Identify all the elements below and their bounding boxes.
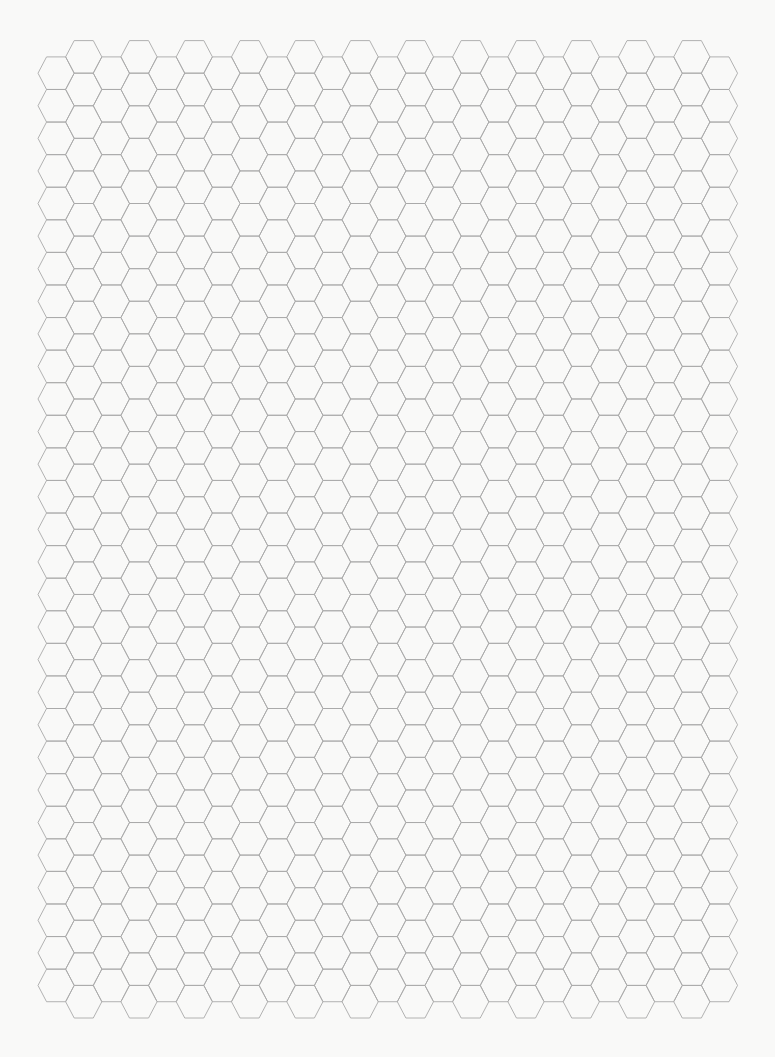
hexagon-cell — [204, 937, 240, 970]
hexagon-cell — [287, 660, 323, 693]
hexagon-cell — [342, 660, 378, 693]
hexagon-cell — [370, 383, 406, 416]
hexagon-cell — [453, 171, 489, 204]
hexagon-cell — [701, 318, 737, 351]
hexagon-cell — [121, 138, 157, 171]
hexagon-cell — [453, 855, 489, 888]
hexagon-cell — [370, 709, 406, 742]
hexagon-cell — [314, 578, 350, 611]
hexagon-cell — [425, 89, 461, 122]
hexagon-cell — [453, 888, 489, 921]
hexagon-cell — [618, 236, 654, 269]
hexagon-cell — [204, 57, 240, 90]
hexagon-cell — [314, 546, 350, 579]
hexagon-cell — [287, 366, 323, 399]
hexagon-cell — [646, 871, 682, 904]
hexagon-cell — [38, 937, 74, 970]
hexagon-cell — [93, 806, 129, 839]
hexagon-cell — [66, 236, 102, 269]
hexagon-cell — [674, 138, 710, 171]
hexagon-cell — [121, 920, 157, 953]
hexagon-cell — [397, 562, 433, 595]
hexagon-cell — [618, 725, 654, 758]
hexagon-cell — [121, 757, 157, 790]
hexagon-cell — [231, 920, 267, 953]
hexagon-cell — [231, 106, 267, 139]
hexagon-cell — [231, 138, 267, 171]
hexagon-cell — [701, 350, 737, 383]
hexagon-cell — [370, 643, 406, 676]
hexagon-cell — [480, 937, 516, 970]
hexagon-cell — [231, 660, 267, 693]
hexagon-cell — [536, 578, 572, 611]
hexagon-cell — [397, 269, 433, 302]
hexagon-cell — [66, 106, 102, 139]
hexagon-cell — [701, 546, 737, 579]
hexagon-cell — [121, 301, 157, 334]
hexagon-cell — [618, 399, 654, 432]
hexagon-cell — [93, 937, 129, 970]
hexagon-cell — [591, 383, 627, 416]
hexagon-cell — [121, 562, 157, 595]
hexagon-cell — [287, 985, 323, 1018]
hexagon-cell — [425, 676, 461, 709]
hexagon-cell — [453, 692, 489, 725]
hexagon-cell — [231, 790, 267, 823]
hexagon-cell — [259, 806, 295, 839]
hexagon-cell — [204, 806, 240, 839]
hexagon-cell — [121, 497, 157, 530]
hexagon-cell — [536, 937, 572, 970]
hexagon-cell — [646, 513, 682, 546]
hexagon-cell — [674, 497, 710, 530]
hexagon-cell — [536, 806, 572, 839]
hexagon-cell — [508, 432, 544, 465]
hexagon-cell — [231, 953, 267, 986]
hexagon-cell — [453, 953, 489, 986]
hexagon-cell — [508, 334, 544, 367]
hexagon-cell — [231, 888, 267, 921]
hexagon-cell — [674, 171, 710, 204]
hexagon-cell — [701, 578, 737, 611]
hexagon-cell — [314, 285, 350, 318]
hexagon-cell — [591, 155, 627, 188]
hexagon-cell — [149, 611, 185, 644]
hexagon-cell — [121, 790, 157, 823]
hexagon-cell — [425, 155, 461, 188]
hexagon-cell — [563, 888, 599, 921]
hexagon-cell — [480, 643, 516, 676]
hexagon-cell — [425, 741, 461, 774]
hexagon-cell — [259, 969, 295, 1002]
hexagon-cell — [563, 725, 599, 758]
hexagon-cell — [591, 448, 627, 481]
hexagon-cell — [646, 187, 682, 220]
hexagon-cell — [370, 57, 406, 90]
hexagon-cell — [453, 823, 489, 856]
hexagon-cell — [591, 611, 627, 644]
hexagon-cell — [397, 236, 433, 269]
hexagon-cell — [342, 301, 378, 334]
hexagon-cell — [66, 660, 102, 693]
hexagon-cell — [674, 920, 710, 953]
hexagon-cell — [701, 904, 737, 937]
hexagon-cell — [453, 529, 489, 562]
hexagon-cell — [149, 383, 185, 416]
hexagon-cell — [66, 399, 102, 432]
hexagon-cell — [259, 252, 295, 285]
hexagon-cell — [536, 611, 572, 644]
hexagon-cell — [453, 920, 489, 953]
hexagon-cell — [287, 888, 323, 921]
hexagon-cell — [314, 643, 350, 676]
hexagon-cell — [342, 790, 378, 823]
hexagon-cell — [66, 562, 102, 595]
hexagon-cell — [149, 676, 185, 709]
hexagon-cell — [563, 562, 599, 595]
hexagon-cell — [370, 871, 406, 904]
hexagon-cell — [176, 725, 212, 758]
hexagon-cell — [176, 464, 212, 497]
hexagon-cell — [259, 709, 295, 742]
hexagon-cell — [93, 187, 129, 220]
hexagon-cell — [287, 204, 323, 237]
hexagon-cell — [591, 871, 627, 904]
hexagon-cell — [66, 204, 102, 237]
hexagon-cell — [121, 660, 157, 693]
